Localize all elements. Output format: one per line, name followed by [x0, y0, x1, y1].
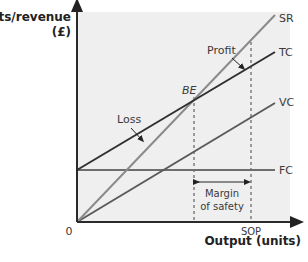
margin-of-safety-label-line2: of safety: [200, 201, 244, 212]
origin-label: 0: [66, 225, 73, 238]
sop-tick-label: SOP: [241, 226, 261, 237]
break-even-chart: Costs/revenue (£) Output (units) 0 SOP S…: [0, 0, 308, 262]
sr-label: SR: [279, 12, 294, 25]
y-axis-unit-label: (£): [52, 25, 71, 39]
vc-label: VC: [279, 96, 295, 109]
plot-area: [77, 12, 290, 222]
y-axis-label: Costs/revenue: [0, 10, 71, 24]
tc-label: TC: [278, 46, 293, 59]
profit-label: Profit: [207, 44, 236, 57]
fc-label: FC: [279, 164, 293, 177]
margin-of-safety-label-line1: Margin: [205, 188, 239, 199]
loss-label: Loss: [117, 113, 141, 126]
break-even-label: BE: [182, 84, 197, 97]
